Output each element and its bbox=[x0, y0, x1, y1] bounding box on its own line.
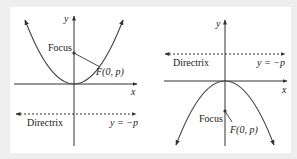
left-directrix-label: Directrix bbox=[27, 117, 63, 128]
left-focus-coord-label: F(0, p) bbox=[95, 66, 124, 78]
right-focal-segment bbox=[225, 111, 232, 122]
left-focal-segment bbox=[74, 53, 100, 67]
parabola-diagrams: y x Focus F(0, p) Directrix y = −p y x F… bbox=[0, 0, 297, 159]
left-diagram: y x Focus F(0, p) Directrix y = −p bbox=[14, 13, 138, 146]
right-focus-coord-label: F(0, p) bbox=[229, 124, 258, 136]
right-directrix-equation: y = −p bbox=[256, 57, 285, 68]
right-focus-label: Focus bbox=[199, 113, 223, 124]
right-directrix-label: Directrix bbox=[173, 57, 209, 68]
right-diagram: y x Focus F(0, p) Directrix y = −p bbox=[164, 18, 287, 146]
left-directrix-equation: y = −p bbox=[109, 117, 138, 128]
right-y-axis-label: y bbox=[215, 18, 221, 29]
left-focus-label: Focus bbox=[48, 42, 72, 53]
left-y-axis-label: y bbox=[63, 13, 69, 24]
left-x-axis-label: x bbox=[130, 86, 136, 97]
right-x-axis-label: x bbox=[281, 84, 287, 95]
